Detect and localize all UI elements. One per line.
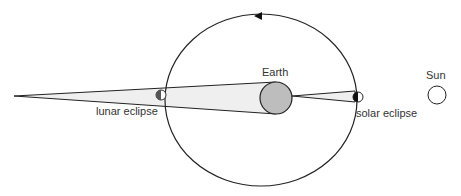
moon-shadow-cone xyxy=(292,91,355,102)
earth-label: Earth xyxy=(262,66,288,78)
sun xyxy=(428,86,446,104)
solar-eclipse-label: solar eclipse xyxy=(356,107,417,119)
sun-label: Sun xyxy=(426,69,446,81)
orbit-direction-arrow-icon xyxy=(254,12,262,20)
moon-solar-eclipse xyxy=(353,92,363,102)
lunar-eclipse-label: lunar eclipse xyxy=(96,105,158,117)
diagram-graphic xyxy=(0,0,461,196)
moon-lunar-eclipse xyxy=(156,90,166,100)
eclipse-diagram: Earth Sun lunar eclipse solar eclipse xyxy=(0,0,461,196)
earth xyxy=(260,82,292,114)
